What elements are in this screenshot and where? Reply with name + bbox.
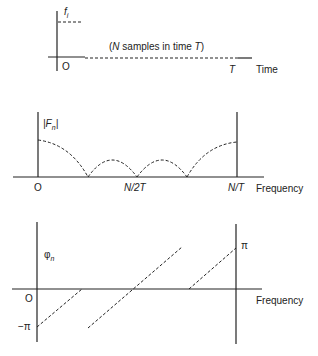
phase-x-label: Frequency xyxy=(256,295,303,306)
mag-side-lobe-1 xyxy=(88,160,137,177)
mag-end-tick: N/T xyxy=(228,182,244,193)
phase-segment-1 xyxy=(37,289,82,327)
caption-fragment xyxy=(0,0,318,4)
time-t-label: T xyxy=(229,64,235,75)
phase-pi-label: π xyxy=(241,240,248,251)
phase-panel xyxy=(12,222,262,344)
mag-mid-tick: N/2T xyxy=(124,182,146,193)
time-annotation: (N samples in time T) xyxy=(109,41,204,52)
mag-main-lobe-left xyxy=(38,140,88,177)
mag-x-label: Frequency xyxy=(256,183,303,194)
mag-side-lobe-2 xyxy=(137,160,187,177)
mag-main-lobe-right xyxy=(187,142,237,177)
phase-y-label: φn xyxy=(44,249,54,262)
phase-neg-pi-label: −π xyxy=(18,321,31,332)
phase-segment-2 xyxy=(88,247,182,328)
time-origin-label: O xyxy=(62,61,70,72)
time-x-label: Time xyxy=(256,64,278,75)
phase-segment-3 xyxy=(189,248,236,289)
phase-origin-label: O xyxy=(25,293,33,304)
time-y-label: fi xyxy=(64,6,68,19)
mag-y-label: |Fn| xyxy=(43,118,58,131)
mag-origin-label: O xyxy=(34,182,42,193)
